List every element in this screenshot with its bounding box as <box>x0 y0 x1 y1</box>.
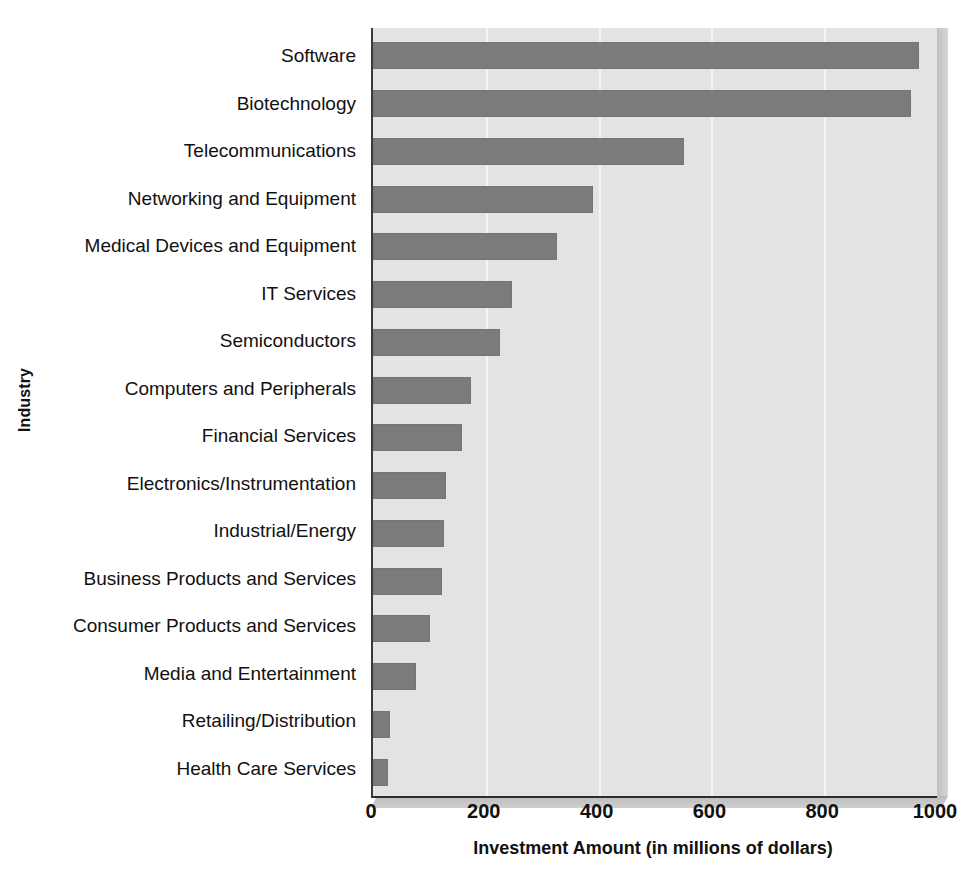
bar-row <box>373 605 937 653</box>
y-axis-tick-label: Electronics/Instrumentation <box>40 460 365 508</box>
y-axis-tick-label: Computers and Peripherals <box>40 365 365 413</box>
y-axis-tick-label: IT Services <box>40 270 365 318</box>
x-axis-tick-label: 600 <box>693 800 726 823</box>
bar-series <box>373 28 937 796</box>
bar-row <box>373 223 937 271</box>
bar-row <box>373 32 937 80</box>
y-axis-tick-labels: SoftwareBiotechnologyTelecommunicationsN… <box>40 32 365 792</box>
bar <box>373 759 388 786</box>
y-axis-tick-label: Networking and Equipment <box>40 175 365 223</box>
bar-row <box>373 271 937 319</box>
bar-row <box>373 80 937 128</box>
y-axis-tick-label: Financial Services <box>40 412 365 460</box>
y-axis-tick-label: Industrial/Energy <box>40 507 365 555</box>
bar <box>373 233 557 260</box>
y-axis-tick-label: Software <box>40 32 365 80</box>
bar-row <box>373 510 937 558</box>
y-axis-title: Industry <box>10 0 40 800</box>
y-axis-tick-label: Medical Devices and Equipment <box>40 222 365 270</box>
bar <box>373 663 416 690</box>
bar <box>373 329 500 356</box>
x-axis-tick-label: 1000 <box>913 800 958 823</box>
y-axis-tick-label: Telecommunications <box>40 127 365 175</box>
y-axis-tick-label: Health Care Services <box>40 745 365 793</box>
y-axis-tick-label: Consumer Products and Services <box>40 602 365 650</box>
y-axis-title-text: Industry <box>16 368 34 432</box>
plot-area <box>371 28 937 798</box>
bar-row <box>373 748 937 796</box>
bar-row <box>373 175 937 223</box>
bar-row <box>373 557 937 605</box>
x-axis-tick-labels: 02004006008001000 <box>371 800 935 830</box>
bar <box>373 186 593 213</box>
bar <box>373 377 471 404</box>
bar-row <box>373 462 937 510</box>
bar <box>373 711 390 738</box>
bar <box>373 90 911 117</box>
y-axis-tick-label: Business Products and Services <box>40 555 365 603</box>
bar-row <box>373 366 937 414</box>
bar <box>373 568 442 595</box>
bar <box>373 138 684 165</box>
x-axis-title: Investment Amount (in millions of dollar… <box>371 838 935 859</box>
bar-row <box>373 414 937 462</box>
bar-row <box>373 701 937 749</box>
plot-frame <box>371 28 935 796</box>
bar <box>373 281 512 308</box>
x-axis-tick-label: 0 <box>365 800 376 823</box>
bar <box>373 615 430 642</box>
y-axis-tick-label: Biotechnology <box>40 80 365 128</box>
x-axis-tick-label: 400 <box>580 800 613 823</box>
y-axis-tick-label: Media and Entertainment <box>40 650 365 698</box>
bar-row <box>373 128 937 176</box>
bar <box>373 472 446 499</box>
bar <box>373 520 444 547</box>
x-axis-tick-label: 200 <box>467 800 500 823</box>
y-axis-tick-label: Semiconductors <box>40 317 365 365</box>
bar-row <box>373 319 937 367</box>
bar-chart: Industry SoftwareBiotechnologyTelecommun… <box>0 0 976 879</box>
bar <box>373 42 919 69</box>
bar-row <box>373 653 937 701</box>
bar <box>373 424 462 451</box>
x-axis-tick-label: 800 <box>806 800 839 823</box>
y-axis-tick-label: Retailing/Distribution <box>40 697 365 745</box>
